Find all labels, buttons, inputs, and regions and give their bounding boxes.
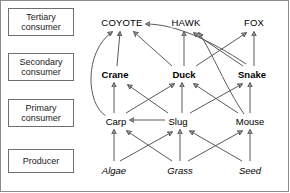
arrow-duck-to-coyote [134, 32, 172, 66]
arrow-snake-to-hawk [194, 33, 243, 66]
arrow-duck-to-fox [196, 33, 246, 66]
node-carp: Carp [105, 116, 128, 127]
node-hawk: HAWK [171, 17, 202, 28]
arrow-slug-to-crane [128, 85, 168, 113]
node-mouse: Mouse [235, 116, 266, 127]
node-fox: FOX [243, 17, 265, 28]
node-slug: Slug [167, 116, 188, 127]
arrow-algae-to-slug [120, 132, 172, 161]
node-seed: Seed [238, 165, 262, 176]
node-algae: Algae [101, 165, 127, 176]
node-duck: Duck [171, 69, 196, 80]
node-coyote: COYOTE [100, 17, 143, 28]
node-grass: Grass [166, 165, 193, 176]
arrow-crane-to-coyote [117, 32, 120, 66]
food-chain-arrows [91, 24, 254, 161]
node-crane: Crane [101, 69, 130, 80]
food-web-diagram: TertiaryconsumerSecondaryconsumerPrimary… [0, 0, 290, 193]
node-snake: Snake [237, 69, 267, 80]
